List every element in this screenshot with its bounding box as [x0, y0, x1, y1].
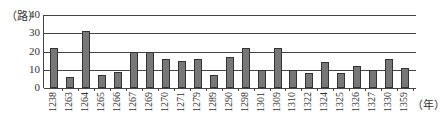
x-tick-mark: [206, 88, 207, 91]
gridline: [44, 33, 416, 34]
x-tick-label: 1238: [47, 92, 58, 118]
bar-1298: [242, 48, 250, 88]
x-tick-label: 1290: [223, 92, 234, 118]
y-tick-label: 0: [24, 81, 40, 93]
x-tick-mark: [349, 88, 350, 91]
x-tick-mark: [254, 88, 255, 91]
bar-1289: [210, 75, 218, 88]
bar-1267: [130, 52, 138, 89]
x-tick-label: 1269: [143, 92, 154, 118]
bar-1290: [226, 57, 234, 88]
bar-1324: [321, 62, 329, 88]
bar-1310: [289, 70, 297, 88]
x-tick-label: 1325: [334, 92, 345, 118]
x-tick-mark: [78, 88, 79, 91]
x-tick-mark: [381, 88, 382, 91]
x-tick-label: 1289: [207, 92, 218, 118]
x-tick-mark: [222, 88, 223, 91]
x-tick-mark: [285, 88, 286, 91]
x-tick-mark: [190, 88, 191, 91]
x-tick-mark: [110, 88, 111, 91]
x-tick-label: 1298: [239, 92, 250, 118]
x-tick-label: 1265: [95, 92, 106, 118]
x-tick-mark: [413, 88, 414, 91]
bar-1359: [401, 68, 409, 88]
x-tick-label: 1309: [271, 92, 282, 118]
x-tick-label: 1322: [302, 92, 313, 118]
x-tick-label: 1326: [350, 92, 361, 118]
x-tick-mark: [397, 88, 398, 91]
x-axis-unit-label: （年）: [412, 96, 441, 112]
bar-1309: [274, 48, 282, 88]
x-tick-label: 1263: [63, 92, 74, 118]
y-tick-label: 20: [24, 45, 40, 57]
x-tick-label: 1330: [382, 92, 393, 118]
x-tick-label: 1266: [111, 92, 122, 118]
bar-1263: [66, 77, 74, 88]
x-tick-label: 1310: [286, 92, 297, 118]
bar-1327: [369, 70, 377, 88]
bar-1265: [98, 75, 106, 88]
x-tick-label: 1359: [398, 92, 409, 118]
bar-1269: [146, 52, 154, 89]
x-tick-mark: [317, 88, 318, 91]
x-tick-label: 1271: [175, 92, 186, 118]
x-tick-mark: [238, 88, 239, 91]
bar-1301: [258, 70, 266, 88]
y-tick-label: 10: [24, 63, 40, 75]
bar-chart: （路） 010203040 12381263126412651266126712…: [0, 0, 441, 122]
x-tick-mark: [158, 88, 159, 91]
x-tick-label: 1327: [366, 92, 377, 118]
y-tick-label: 30: [24, 26, 40, 38]
x-tick-label: 1267: [127, 92, 138, 118]
x-tick-mark: [174, 88, 175, 91]
x-tick-label: 1324: [318, 92, 329, 118]
bar-1238: [50, 48, 58, 88]
bar-1271: [178, 61, 186, 88]
x-tick-mark: [126, 88, 127, 91]
x-tick-mark: [365, 88, 366, 91]
bar-1270: [162, 59, 170, 88]
x-tick-mark: [333, 88, 334, 91]
x-tick-mark: [270, 88, 271, 91]
x-tick-mark: [301, 88, 302, 91]
x-tick-mark: [94, 88, 95, 91]
x-tick-mark: [62, 88, 63, 91]
gridline: [44, 52, 416, 53]
x-tick-label: 1301: [255, 92, 266, 118]
bar-1325: [337, 73, 345, 88]
bar-1330: [385, 59, 393, 88]
x-tick-label: 1279: [191, 92, 202, 118]
gridline: [44, 15, 416, 16]
bar-1264: [82, 31, 90, 88]
x-tick-mark: [142, 88, 143, 91]
bar-1266: [114, 72, 122, 88]
plot-area: [43, 15, 416, 88]
x-tick-label: 1270: [159, 92, 170, 118]
bar-1322: [305, 73, 313, 88]
bar-1326: [353, 66, 361, 88]
x-axis-line: [44, 88, 416, 89]
bar-1279: [194, 59, 202, 88]
x-tick-label: 1264: [79, 92, 90, 118]
y-tick-label: 40: [24, 8, 40, 20]
